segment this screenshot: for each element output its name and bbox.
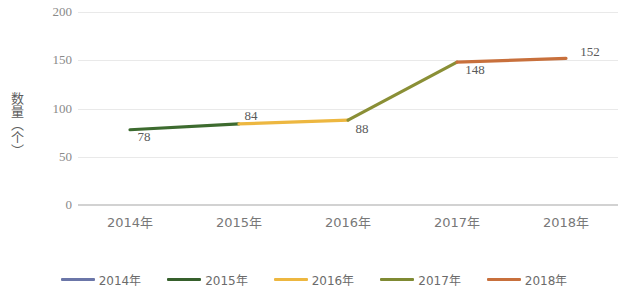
y-axis-tick-label: 200 [26, 4, 72, 20]
series-line [78, 12, 618, 205]
legend-swatch-icon [487, 278, 521, 281]
legend-swatch-icon [274, 278, 308, 281]
legend-item[interactable]: 2015年 [167, 271, 248, 288]
line-chart: 数量（个） 200150100500 788488148152 2014年201… [0, 0, 628, 297]
y-axis-tick-labels: 200150100500 [26, 0, 72, 297]
plot-area: 788488148152 [78, 12, 618, 205]
legend-item[interactable]: 2014年 [61, 271, 142, 288]
x-axis-tick-label: 2016年 [325, 212, 371, 231]
legend-item[interactable]: 2018年 [487, 271, 568, 288]
legend-label: 2018年 [525, 271, 568, 288]
data-point-label: 88 [356, 121, 369, 137]
legend-label: 2016年 [312, 271, 355, 288]
legend-swatch-icon [167, 278, 201, 281]
y-axis-tick-label: 100 [26, 101, 72, 117]
y-axis-title: 数量（个） [2, 64, 24, 184]
x-axis-tick-labels: 2014年2015年2016年2017年2018年 [78, 212, 618, 236]
y-axis-tick-label: 150 [26, 52, 72, 68]
legend-label: 2017年 [418, 271, 461, 288]
data-point-label: 152 [580, 44, 600, 60]
gridline [78, 205, 618, 206]
line-segment [348, 62, 457, 120]
legend-label: 2014年 [99, 271, 142, 288]
chart-legend: 2014年2015年2016年2017年2018年 [0, 268, 628, 290]
legend-item[interactable]: 2016年 [274, 271, 355, 288]
data-point-label: 84 [245, 108, 258, 124]
y-axis-tick-label: 50 [26, 149, 72, 165]
legend-label: 2015年 [205, 271, 248, 288]
y-axis-tick-label: 0 [26, 197, 72, 213]
data-point-label: 78 [138, 129, 151, 145]
x-axis-tick-label: 2015年 [216, 212, 262, 231]
x-axis-tick-label: 2017年 [434, 212, 480, 231]
x-axis-tick-label: 2018年 [543, 212, 589, 231]
data-point-label: 148 [465, 62, 485, 78]
legend-swatch-icon [61, 278, 95, 281]
x-axis-tick-label: 2014年 [107, 212, 153, 231]
legend-item[interactable]: 2017年 [380, 271, 461, 288]
legend-swatch-icon [380, 278, 414, 281]
